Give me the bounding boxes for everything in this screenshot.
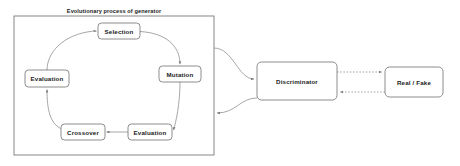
generator-group-title: Evolutionary process of generator: [67, 8, 162, 14]
node-selection[interactable]: Selection: [98, 23, 140, 39]
edge-discriminator-to-generator: [217, 98, 257, 113]
node-evaluation-bottom-label: Evaluation: [134, 129, 167, 136]
node-selection-label: Selection: [105, 28, 134, 35]
edge-generator-to-discriminator: [214, 48, 254, 79]
node-mutation-label: Mutation: [167, 71, 194, 78]
diagram-svg: Evolutionary process of generator Select…: [0, 0, 460, 166]
node-evaluation-bottom[interactable]: Evaluation: [128, 124, 172, 140]
node-crossover[interactable]: Crossover: [61, 124, 105, 140]
node-mutation[interactable]: Mutation: [159, 66, 201, 82]
node-discriminator-label: Discriminator: [276, 78, 318, 85]
node-crossover-label: Crossover: [67, 129, 99, 136]
node-evaluation-left[interactable]: Evaluation: [25, 70, 69, 87]
node-evaluation-left-label: Evaluation: [31, 75, 64, 82]
node-discriminator[interactable]: Discriminator: [257, 62, 337, 100]
diagram-canvas: Evolutionary process of generator Select…: [0, 0, 460, 166]
node-real-fake-label: Real / Fake: [397, 79, 431, 86]
node-real-fake[interactable]: Real / Fake: [385, 67, 443, 97]
